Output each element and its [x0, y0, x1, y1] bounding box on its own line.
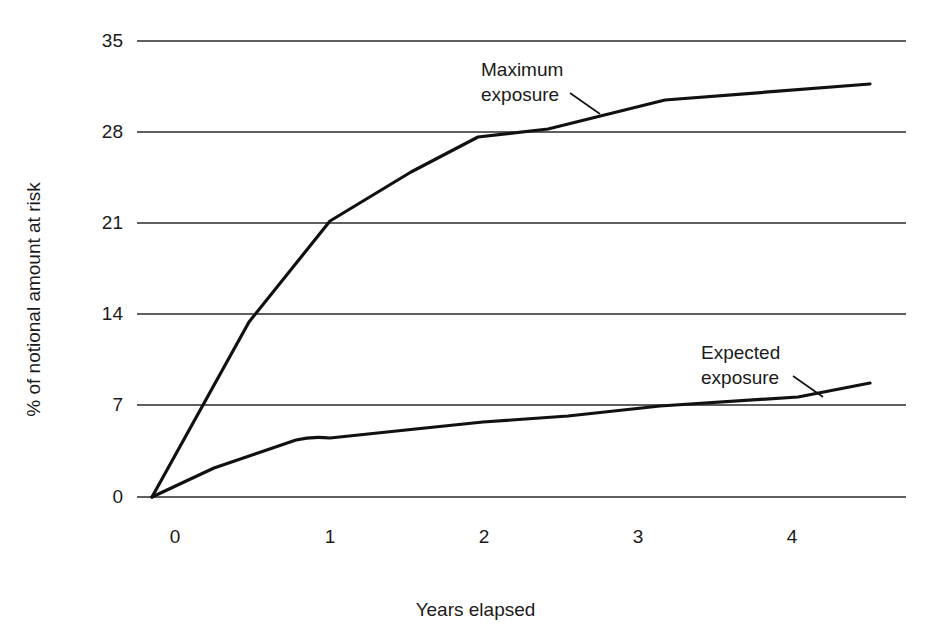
x-tick-label-3: 3: [618, 527, 658, 546]
y-tick-label-21: 21: [63, 213, 123, 232]
y-tick-label-14: 14: [63, 304, 123, 323]
y-tick-label-35: 35: [63, 31, 123, 50]
x-tick-label-2: 2: [464, 527, 504, 546]
series-line-expected-exposure: [152, 383, 870, 497]
series-annotation-expected-exposure: Expected exposure: [701, 340, 780, 390]
y-tick-label-0: 0: [63, 487, 123, 506]
y-tick-label-7: 7: [63, 395, 123, 414]
gridlines: [137, 41, 906, 497]
y-axis-title: % of notional amount at risk: [24, 175, 43, 425]
x-tick-label-1: 1: [310, 527, 350, 546]
chart-figure: 35 28 21 14 7 0 0 1 2 3 4 % of notional …: [0, 0, 951, 636]
x-axis-title: Years elapsed: [0, 600, 951, 619]
y-tick-label-28: 28: [63, 122, 123, 141]
x-tick-label-4: 4: [772, 527, 812, 546]
x-tick-label-0: 0: [155, 527, 195, 546]
series-line-maximum-exposure: [152, 84, 870, 497]
series-annotation-maximum-exposure: Maximum exposure: [481, 57, 563, 107]
leader-line-maximum-exposure: [570, 93, 600, 114]
